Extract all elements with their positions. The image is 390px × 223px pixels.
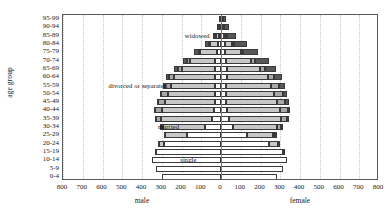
bar-row bbox=[63, 58, 377, 64]
bar-row bbox=[63, 99, 377, 105]
x-tick-label: 700 bbox=[77, 183, 88, 191]
bar-segment bbox=[221, 174, 277, 180]
y-tick-label: 55-59 bbox=[27, 81, 59, 89]
bar-segment bbox=[221, 141, 269, 147]
bar-segment bbox=[234, 41, 247, 47]
y-tick-label: 80-84 bbox=[27, 39, 59, 47]
y-tick-label: 85-89 bbox=[27, 31, 59, 39]
x-tick-label: 800 bbox=[57, 183, 68, 191]
bar-segment bbox=[221, 124, 233, 130]
y-tick-label: 35-39 bbox=[27, 114, 59, 122]
y-axis-title: age group bbox=[5, 48, 14, 118]
y-tick-label: 65-69 bbox=[27, 64, 59, 72]
bar-row bbox=[63, 24, 377, 30]
x-tick-label: 500 bbox=[314, 183, 325, 191]
bar-segment bbox=[243, 49, 258, 55]
bar-row bbox=[63, 33, 377, 39]
bar-segment bbox=[255, 58, 269, 64]
y-tick-label: 25-29 bbox=[27, 130, 59, 138]
bar-segment bbox=[288, 107, 290, 113]
bar-segment bbox=[274, 91, 282, 97]
bar-segment bbox=[278, 141, 280, 147]
y-tick-label: 40-44 bbox=[27, 105, 59, 113]
y-tick-label: 75-79 bbox=[27, 47, 59, 55]
category-annotation: widowed bbox=[185, 32, 210, 39]
bar-row bbox=[63, 107, 377, 113]
x-tick-label: 100 bbox=[195, 183, 206, 191]
category-annotation: married bbox=[158, 123, 179, 130]
bar-segment bbox=[283, 91, 287, 97]
bar-row bbox=[63, 141, 377, 147]
bar-row bbox=[63, 66, 377, 72]
y-tick-label: 20-24 bbox=[27, 139, 59, 147]
y-tick-label: 30-34 bbox=[27, 122, 59, 130]
bar-segment bbox=[221, 157, 287, 163]
x-tick-label: 600 bbox=[96, 183, 107, 191]
bar-segment bbox=[283, 149, 285, 155]
bar-segment bbox=[274, 74, 282, 80]
bar-row bbox=[63, 74, 377, 80]
bar-segment bbox=[285, 99, 288, 105]
bar-segment bbox=[227, 74, 268, 80]
y-tick-label: 15-19 bbox=[27, 147, 59, 155]
y-tick-label: 0-4 bbox=[27, 172, 59, 180]
population-pyramid-chart: age group 95-9990-9485-8980-8475-7970-74… bbox=[0, 0, 390, 223]
bar-row bbox=[63, 174, 377, 180]
bar-segment bbox=[221, 132, 247, 138]
bar-row bbox=[63, 157, 377, 163]
bar-row bbox=[63, 116, 377, 122]
bar-segment bbox=[287, 116, 289, 122]
x-tick-label: 600 bbox=[333, 183, 344, 191]
y-axis-tick-labels: 95-9990-9485-8980-8475-7970-7465-6960-64… bbox=[27, 14, 59, 180]
category-annotation: single bbox=[180, 156, 196, 163]
x-tick-label: 100 bbox=[235, 183, 246, 191]
bar-row bbox=[63, 16, 377, 22]
bar-segment bbox=[277, 99, 286, 105]
y-tick-label: 50-54 bbox=[27, 89, 59, 97]
bar-segment bbox=[221, 166, 283, 172]
bar-segment bbox=[271, 83, 279, 89]
x-tick-label: 400 bbox=[294, 183, 305, 191]
y-tick-label: 90-94 bbox=[27, 22, 59, 30]
bar-segment bbox=[226, 83, 271, 89]
x-tick-label: 300 bbox=[274, 183, 285, 191]
bar-segment bbox=[247, 132, 273, 138]
bar-segment bbox=[275, 132, 277, 138]
bar-segment bbox=[233, 124, 277, 130]
bar-segment bbox=[227, 107, 280, 113]
bar-segment bbox=[281, 124, 283, 130]
y-tick-label: 95-99 bbox=[27, 14, 59, 22]
bar-row bbox=[63, 132, 377, 138]
x-axis-label-female: female bbox=[290, 196, 310, 205]
bar-segment bbox=[225, 49, 240, 55]
bar-segment bbox=[221, 116, 229, 122]
y-tick-label: 70-74 bbox=[27, 56, 59, 64]
bar-segment bbox=[265, 66, 276, 72]
y-tick-label: 45-49 bbox=[27, 97, 59, 105]
plot-area: widoweddivorced or separatedmarriedsingl… bbox=[62, 14, 378, 180]
bar-segment bbox=[279, 83, 285, 89]
x-tick-label: 500 bbox=[116, 183, 127, 191]
y-tick-label: 10-14 bbox=[27, 155, 59, 163]
bar-segment bbox=[225, 41, 233, 47]
x-tick-label: 0 bbox=[218, 183, 222, 191]
x-tick-label: 200 bbox=[175, 183, 186, 191]
bar-segment bbox=[229, 116, 281, 122]
x-tick-label: 400 bbox=[136, 183, 147, 191]
category-annotation: divorced or separated bbox=[109, 82, 168, 89]
bar-segment bbox=[224, 24, 229, 30]
x-tick-label: 800 bbox=[373, 183, 384, 191]
x-tick-label: 300 bbox=[156, 183, 167, 191]
bar-segment bbox=[226, 99, 277, 105]
bar-row bbox=[63, 49, 377, 55]
y-tick-label: 5-9 bbox=[27, 164, 59, 172]
bar-segment bbox=[280, 107, 288, 113]
bar-segment bbox=[223, 16, 226, 22]
x-axis-label-male: male bbox=[135, 196, 150, 205]
zero-axis-line bbox=[221, 15, 222, 179]
bar-row bbox=[63, 124, 377, 130]
bar-segment bbox=[227, 66, 261, 72]
x-axis-tick-labels: 8007006005004003002001000100200300400500… bbox=[62, 183, 378, 195]
bar-segment bbox=[269, 141, 278, 147]
bar-row bbox=[63, 41, 377, 47]
